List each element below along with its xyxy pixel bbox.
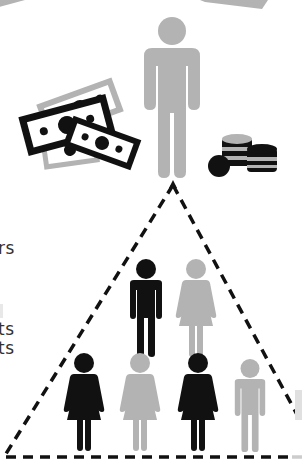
- loose-coin-icon: [208, 155, 230, 177]
- top-left-grey-shape: [0, 0, 25, 8]
- coin-stacks-icon: [208, 134, 277, 177]
- right-edge-grey-shape: [295, 390, 302, 420]
- money-bills-icon: [18, 77, 141, 170]
- wealthy-man-figure: [144, 17, 200, 178]
- pyramid-woman-grey-2: [120, 353, 161, 451]
- infographic-illustration: [0, 0, 302, 469]
- pyramid-woman-grey: [176, 259, 217, 357]
- top-right-grey-shape: [200, 0, 268, 9]
- pyramid-apex: [169, 180, 177, 188]
- pyramid-man-black: [130, 259, 162, 357]
- pyramid-man-grey: [235, 359, 265, 452]
- pyramid-woman-black-3: [178, 353, 219, 451]
- pyramid-woman-black-1: [64, 353, 105, 451]
